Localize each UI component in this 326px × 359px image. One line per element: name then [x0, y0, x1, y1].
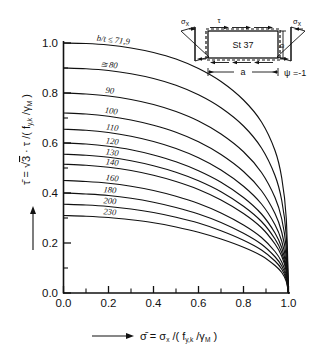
- curve-label-100: 100: [104, 105, 119, 117]
- chart-svg: 1.0 0.8 0.6 0.4 0.2 0.0 0.0 0.2 0.4 0.6 …: [0, 0, 326, 359]
- inset-dim-a-label: a: [240, 67, 245, 77]
- curve-label-group: b/t ≤ 71,9≅ 8090100110120130140160180200…: [96, 33, 131, 218]
- inset-dim-a: a: [208, 66, 278, 78]
- curve-label-160: 160: [105, 172, 120, 183]
- curve-group: [64, 43, 289, 293]
- inset-sigma-left: σx: [181, 17, 209, 61]
- inset-shear-arrows-bottom: [210, 61, 273, 64]
- x-tick-label: 0.6: [191, 297, 207, 309]
- x-axis-title: σ̄ = σx /( fy,k /γM ): [92, 330, 217, 344]
- curve-130: [64, 154, 289, 293]
- curve-label-80: ≅ 80: [99, 59, 118, 71]
- x-axis-title-text: σ̄ = σx /( fy,k /γM ): [140, 330, 217, 344]
- y-tick-label: 0.4: [42, 187, 59, 199]
- x-tick-label: 0.4: [146, 297, 163, 309]
- axis-lines: [63, 41, 290, 294]
- curve-200: [64, 204, 289, 293]
- inset-sigma-left-label: σx: [181, 17, 190, 27]
- y-tick-labels: 1.0 0.8 0.6 0.4 0.2 0.0: [42, 37, 59, 299]
- y-tick-label: 0.2: [42, 237, 58, 249]
- inset-sigma-right-label: σx: [293, 17, 302, 27]
- x-tick-label: 0.8: [236, 297, 252, 309]
- curve-label-140: 140: [105, 156, 120, 168]
- curve-180: [64, 193, 289, 293]
- curve-230: [64, 216, 289, 294]
- y-axis-title-text: τ̄ = √3 · τ /( fy,k /γM ): [20, 94, 34, 185]
- curve-90: [64, 93, 289, 293]
- inset-psi-label: ψ =-1: [284, 68, 306, 78]
- x-tick-label: 0.0: [56, 297, 72, 309]
- curve-b-t-71-9: [64, 43, 289, 293]
- y-tick-label: 0.8: [42, 87, 58, 99]
- figure-root: 1.0 0.8 0.6 0.4 0.2 0.0 0.0 0.2 0.4 0.6 …: [0, 0, 326, 359]
- curve-label-180: 180: [103, 184, 117, 195]
- curve-120: [64, 143, 289, 293]
- x-tick-label: 1.0: [281, 297, 297, 309]
- x-tick-labels: 0.0 0.2 0.4 0.6 0.8 1.0: [56, 297, 297, 309]
- y-axis-title-arrow: [30, 206, 36, 250]
- y-tick-label: 0.6: [42, 137, 58, 149]
- y-axis-title: τ̄ = √3 · τ /( fy,k /γM ): [20, 94, 34, 185]
- curve-label-230: 230: [103, 206, 117, 217]
- curve-label-200: 200: [103, 195, 117, 206]
- curve-80: [64, 68, 289, 293]
- inset-material-label: St 37: [232, 40, 253, 50]
- curve-label-90: 90: [105, 85, 115, 96]
- curve-label-120: 120: [105, 135, 120, 147]
- curve-160: [64, 181, 289, 294]
- curve-100: [64, 113, 289, 293]
- inset-tau-label: τ: [218, 16, 221, 25]
- curve-label-110: 110: [106, 122, 120, 134]
- y-tick-label: 1.0: [42, 37, 58, 49]
- curve-140: [64, 164, 289, 293]
- inset-dim-b-label: b: [277, 44, 286, 48]
- inset-sigma-right: σx: [277, 17, 305, 61]
- x-tick-label: 0.2: [101, 297, 117, 309]
- curve-110: [64, 129, 289, 293]
